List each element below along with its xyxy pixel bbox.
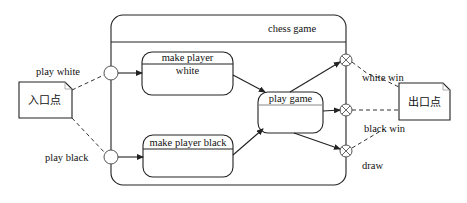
- entry-note-label: 入口点: [28, 94, 61, 107]
- dashed-link-play-black: [72, 118, 105, 153]
- state-title: play game: [269, 93, 313, 104]
- exit-point-white-win: [340, 54, 352, 66]
- label-draw: draw: [362, 160, 383, 171]
- state-title: make player: [162, 52, 214, 63]
- state-diagram: chess game make player white make player…: [0, 0, 467, 203]
- transition-white-to-play: [233, 75, 265, 92]
- state-make-player-black: make player black: [143, 135, 233, 177]
- transition-black-to-play: [233, 129, 263, 155]
- label-black-win: black win: [364, 123, 406, 134]
- state-title: make player black: [150, 137, 228, 148]
- transition-play-to-white-win: [290, 62, 340, 92]
- state-play-game: play game: [258, 92, 323, 133]
- exit-point-draw: [340, 145, 352, 157]
- dashed-link-play-white: [72, 75, 104, 90]
- entry-point-black: [104, 150, 118, 164]
- exit-point-black-win: [340, 104, 352, 116]
- entry-point-white: [104, 66, 118, 80]
- entry-point-note: 入口点: [19, 82, 72, 118]
- transition-play-to-black-win: [323, 110, 340, 111]
- exit-point-note: 出口点: [399, 83, 450, 120]
- exit-note-label: 出口点: [408, 95, 441, 109]
- label-white-win: white win: [362, 72, 404, 83]
- state-body: white: [176, 65, 200, 76]
- transition-play-to-draw: [294, 133, 340, 149]
- label-play-white: play white: [36, 66, 80, 77]
- label-play-black: play black: [45, 152, 89, 163]
- state-make-player-white: make player white: [142, 52, 233, 95]
- composite-state-title: chess game: [268, 23, 316, 34]
